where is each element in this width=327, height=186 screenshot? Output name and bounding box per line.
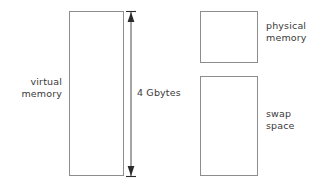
swap-space-label: swap space	[266, 108, 326, 132]
memory-diagram: virtual memory 4 Gbytes physical memory …	[0, 0, 327, 186]
physical-memory-box	[200, 11, 258, 63]
virtual-memory-box	[69, 11, 124, 176]
swap-space-box	[200, 76, 258, 176]
size-annotation-label: 4 Gbytes	[137, 87, 197, 99]
virtual-memory-label: virtual memory	[2, 76, 62, 100]
physical-memory-label: physical memory	[266, 20, 326, 44]
